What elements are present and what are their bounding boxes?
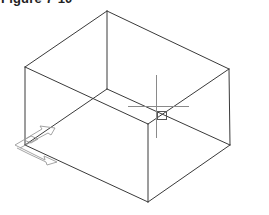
edge-bottom-front-left: [25, 145, 148, 202]
edge-top-front-right: [148, 69, 229, 124]
edge-vertical-right: [229, 69, 230, 145]
wireframe-drawing: [0, 0, 269, 215]
edge-bottom-front-right: [148, 145, 230, 202]
edge-top-left: [25, 11, 107, 67]
edge-top-front-left: [25, 67, 148, 124]
edge-top-right: [107, 11, 229, 69]
edge-bottom-back-left: [25, 89, 107, 145]
ucs-y-axis-arrow: [15, 126, 55, 148]
wireframe-box: [25, 11, 230, 202]
ucs-x-axis-arrow: [15, 145, 57, 165]
edge-bottom-back-right: [107, 89, 230, 145]
crosshair-cursor-icon[interactable]: [128, 75, 189, 138]
ucs-icon: [15, 126, 57, 165]
